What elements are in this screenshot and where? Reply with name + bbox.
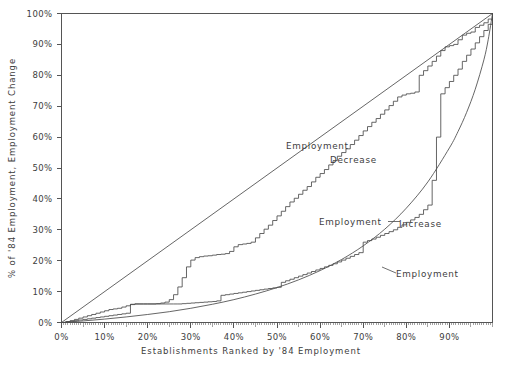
y-tick-label-30%: 30%	[32, 225, 52, 235]
x-tick-label-40%: 40%	[224, 332, 244, 342]
chart-figure: 0%10%20%30%40%50%60%70%80%90%100% 0%10%2…	[0, 0, 507, 371]
y-tick-label-20%: 20%	[32, 256, 52, 266]
lorenz-curve-chart: 0%10%20%30%40%50%60%70%80%90%100% 0%10%2…	[0, 0, 507, 371]
x-axis-tick-labels: 0%10%20%30%40%50%60%70%80%90%	[54, 332, 459, 342]
y-axis-title: % of '84 Employment, Employment Change	[7, 58, 17, 278]
label-employment-increase-part2: Increase	[399, 219, 442, 229]
x-tick-label-20%: 20%	[138, 332, 158, 342]
label-employment-decrease: Decrease	[330, 155, 377, 165]
x-tick-label-70%: 70%	[353, 332, 373, 342]
y-tick-label-40%: 40%	[32, 194, 52, 204]
x-tick-label-30%: 30%	[181, 332, 201, 342]
label-employment-diagonal: Employment	[286, 141, 349, 151]
y-tick-label-50%: 50%	[32, 163, 52, 173]
y-tick-label-10%: 10%	[32, 287, 52, 297]
y-axis-tick-labels: 0%10%20%30%40%50%60%70%80%90%100%	[27, 9, 53, 328]
x-axis-title: Establishments Ranked by '84 Employment	[141, 346, 361, 356]
y-tick-label-80%: 80%	[32, 70, 52, 80]
annotation-labels: Employment Decrease Employment Increase …	[286, 141, 459, 279]
y-tick-label-60%: 60%	[32, 132, 52, 142]
x-tick-label-50%: 50%	[267, 332, 287, 342]
x-tick-label-60%: 60%	[310, 332, 330, 342]
leader-employment-lower	[382, 267, 396, 273]
x-tick-label-90%: 90%	[439, 332, 459, 342]
label-employment-lower: Employment	[396, 269, 459, 279]
y-axis-ticks	[57, 14, 62, 323]
y-tick-label-0%: 0%	[38, 318, 52, 328]
x-tick-label-0%: 0%	[54, 332, 68, 342]
x-tick-label-80%: 80%	[396, 332, 416, 342]
y-tick-label-100%: 100%	[27, 9, 53, 19]
x-tick-label-10%: 10%	[95, 332, 115, 342]
y-tick-label-70%: 70%	[32, 101, 52, 111]
label-employment-increase-part1: Employment	[319, 217, 382, 227]
y-tick-label-90%: 90%	[32, 39, 52, 49]
